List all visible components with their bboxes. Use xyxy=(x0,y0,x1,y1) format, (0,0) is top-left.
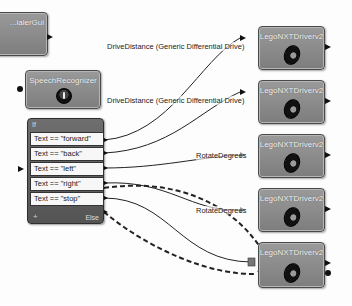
tire-icon xyxy=(281,151,303,175)
wire-label-drivedistance-2[interactable]: DriveDistance (Generic Differential Driv… xyxy=(107,96,244,105)
vpl-diagram-canvas[interactable]: ...ialerGui SpeechRecognizer If Text == … xyxy=(0,0,352,306)
else-branch-label: Else xyxy=(85,214,99,221)
block-title: LegoNXTDriverv2 xyxy=(259,248,324,257)
output-port[interactable] xyxy=(325,44,331,50)
wire-label-rotatedegrees-2[interactable]: RotateDegrees xyxy=(196,206,246,215)
lego-nxt-drive-block-5[interactable]: LegoNXTDriverv2 xyxy=(258,242,325,288)
if-title: If xyxy=(32,121,36,128)
condition-left[interactable]: Text == "left" xyxy=(30,162,104,176)
condition-right[interactable]: Text == "right" xyxy=(30,177,104,191)
condition-forward[interactable]: Text == "forward" xyxy=(30,132,104,146)
block-title: ...ialerGui xyxy=(0,18,47,27)
lego-nxt-drive-block-3[interactable]: LegoNXTDriverv2 xyxy=(258,134,325,178)
partial-service-block[interactable]: ...ialerGui xyxy=(0,12,48,56)
output-port[interactable] xyxy=(47,34,53,40)
output-port[interactable] xyxy=(325,260,331,266)
speech-recognizer-block[interactable]: SpeechRecognizer xyxy=(25,70,101,109)
microphone-icon xyxy=(56,88,72,104)
wire-label-rotatedegrees-1[interactable]: RotateDegrees xyxy=(196,151,246,160)
tire-icon xyxy=(281,43,303,67)
wire-label-drivedistance-1[interactable]: DriveDistance (Generic Differential Driv… xyxy=(107,42,244,51)
tire-icon xyxy=(281,261,303,285)
lego-nxt-drive-block-4[interactable]: LegoNXTDriverv2 xyxy=(258,188,325,232)
block-title: LegoNXTDriverv2 xyxy=(259,86,324,95)
block-title: SpeechRecognizer xyxy=(26,76,100,85)
condition-back[interactable]: Text == "back" xyxy=(30,147,104,161)
output-port[interactable] xyxy=(325,98,331,104)
add-condition-button[interactable]: + xyxy=(33,212,38,221)
notification-port[interactable] xyxy=(325,270,331,276)
block-title: LegoNXTDriverv2 xyxy=(259,140,324,149)
tire-icon xyxy=(281,97,303,121)
tire-icon xyxy=(281,205,303,229)
if-block[interactable]: If Text == "forward" Text == "back" Text… xyxy=(27,118,104,224)
condition-stop[interactable]: Text == "stop" xyxy=(30,192,104,206)
block-title: LegoNXTDriverv2 xyxy=(259,32,324,41)
block-title: LegoNXTDriverv2 xyxy=(259,194,324,203)
input-port[interactable] xyxy=(17,86,23,92)
output-port[interactable] xyxy=(325,206,331,212)
lego-nxt-drive-block-1[interactable]: LegoNXTDriverv2 xyxy=(258,26,325,70)
lego-nxt-drive-block-2[interactable]: LegoNXTDriverv2 xyxy=(258,80,325,124)
output-port[interactable] xyxy=(325,152,331,158)
